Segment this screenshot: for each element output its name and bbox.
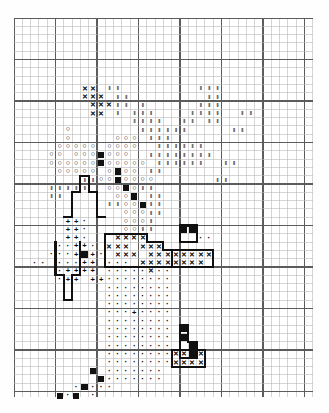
cross-stitch-chart: ✕✕‖‖‖‖‖✕✕✕‖‖‖‖✕✕✕‖‖‖‖‖‖✕✕‖‖‖‖‖‖‖‖‖‖‖‖‖‖‖… — [0, 0, 329, 413]
backstitch-layer — [14, 18, 313, 397]
pattern-grid[interactable]: ✕✕‖‖‖‖‖✕✕✕‖‖‖‖✕✕✕‖‖‖‖‖‖✕✕‖‖‖‖‖‖‖‖‖‖‖‖‖‖‖… — [14, 18, 313, 397]
